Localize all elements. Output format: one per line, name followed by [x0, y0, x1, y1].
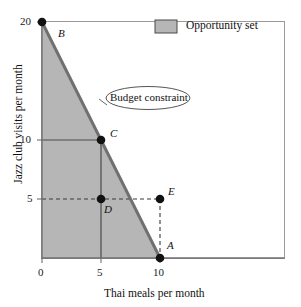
data-point-b[interactable] — [38, 18, 47, 27]
figure-opportunity-set: 20 10 5 0 5 10 Thai meals per month Jazz… — [0, 0, 301, 307]
point-label-a: A — [167, 240, 174, 251]
y-tick-label-20: 20 — [20, 16, 31, 27]
data-point-d[interactable] — [97, 195, 106, 204]
point-label-b: B — [58, 28, 65, 39]
y-tick-label-5: 5 — [27, 193, 33, 204]
x-tick-label-5: 5 — [97, 267, 103, 278]
x-axis-title: Thai meals per month — [104, 288, 205, 300]
chart-canvas — [0, 0, 301, 307]
data-point-e[interactable] — [156, 195, 165, 204]
x-tick-label-0: 0 — [38, 267, 44, 278]
point-label-c: C — [110, 128, 117, 139]
point-label-e: E — [168, 186, 175, 197]
data-point-c[interactable] — [97, 136, 106, 145]
legend-swatch-opportunity-set — [155, 20, 177, 33]
callout-leader-line — [99, 99, 107, 105]
x-tick-label-10: 10 — [153, 267, 164, 278]
callout-label-budget-constraint: Budget constraint — [110, 92, 188, 103]
data-point-a[interactable] — [156, 254, 165, 263]
y-axis-title: Jazz club visits per month — [12, 54, 24, 194]
point-label-d: D — [104, 204, 112, 215]
legend-label-opportunity-set: Opportunity set — [186, 20, 258, 32]
